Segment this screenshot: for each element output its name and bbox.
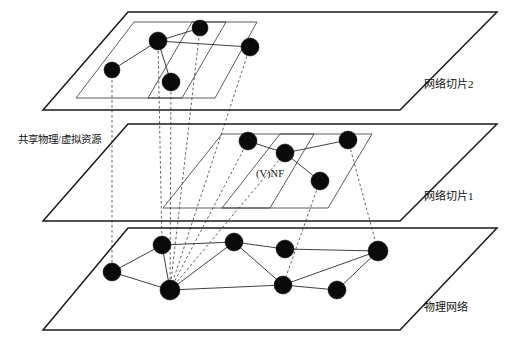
- mapping-line: [170, 82, 171, 290]
- network-node: [368, 241, 388, 261]
- network-node: [192, 20, 208, 36]
- graph-physical: [103, 233, 388, 300]
- network-node: [160, 280, 180, 300]
- mapping-line: [170, 141, 248, 290]
- graph-edge: [158, 41, 250, 47]
- plane-slice2: [43, 12, 497, 110]
- network-node: [239, 132, 257, 150]
- network-node: [339, 131, 357, 149]
- network-node: [274, 276, 292, 294]
- graph-edge: [162, 242, 234, 245]
- graph-edge: [234, 242, 283, 285]
- plane-outline-slice2: [43, 12, 497, 110]
- network-node: [162, 73, 180, 91]
- network-node: [276, 144, 294, 162]
- network-node: [103, 263, 121, 281]
- overlay-graphs-group: [103, 20, 388, 300]
- subplane-slice1-1: [163, 134, 314, 208]
- network-slicing-diagram: 网络切片2网络切片1物理网络共享物理/虚拟资源(V)NF: [0, 0, 511, 338]
- vnf-label: (V)NF: [256, 168, 284, 180]
- network-node: [328, 281, 346, 299]
- network-node: [225, 233, 243, 251]
- layer-label-physical: 物理网络: [424, 300, 468, 313]
- graph-edge: [170, 242, 234, 290]
- graph-edge: [170, 285, 283, 290]
- mapping-line: [170, 28, 200, 290]
- network-node: [311, 172, 329, 190]
- mapping-line: [170, 47, 250, 290]
- network-node: [241, 38, 259, 56]
- network-node: [153, 236, 171, 254]
- network-node: [276, 240, 294, 258]
- graph-edge: [283, 251, 378, 285]
- network-node: [149, 32, 167, 50]
- layer-label-slice1: 网络切片1: [424, 189, 474, 202]
- mapping-line: [348, 140, 378, 251]
- diagram-canvas: 网络切片2网络切片1物理网络共享物理/虚拟资源(V)NF: [0, 0, 511, 338]
- graph-edge: [285, 140, 348, 153]
- network-node: [104, 62, 120, 78]
- layer-label-slice2: 网络切片2: [424, 77, 474, 90]
- shared-resource-label: 共享物理/虚拟资源: [18, 133, 102, 145]
- mapping-line: [283, 181, 320, 285]
- graph-edge: [285, 249, 378, 251]
- mapping-line: [158, 41, 162, 245]
